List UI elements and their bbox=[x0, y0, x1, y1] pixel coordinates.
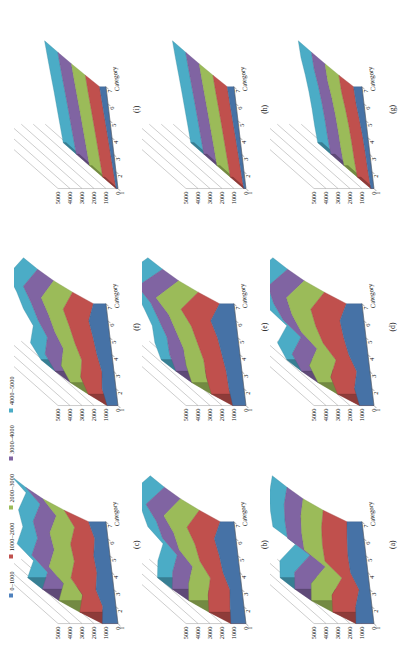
surface-plot-e: 5000400030002000100001234567Category bbox=[142, 218, 270, 436]
category-tick-label: 5 bbox=[366, 123, 373, 126]
category-tick-label: 3 bbox=[114, 374, 121, 377]
surface-plot-a: 5000400030002000100001234567Category bbox=[270, 435, 398, 653]
z-tick-label: 3000 bbox=[206, 626, 213, 639]
category-tick-label: 5 bbox=[110, 123, 117, 126]
category-tick-label: 5 bbox=[366, 340, 373, 343]
z-axis-ticks: 500040003000200010000 bbox=[310, 408, 377, 421]
z-tick-label: 5000 bbox=[182, 408, 189, 421]
surface-plot-c: 5000400030002000100001234567Category bbox=[14, 435, 142, 653]
category-axis-title: Category bbox=[110, 283, 120, 309]
category-tick-label: 6 bbox=[364, 541, 371, 544]
category-axis-title: Category bbox=[110, 500, 120, 526]
surface-ribbons bbox=[142, 475, 246, 623]
panel-caption: (e) bbox=[260, 322, 269, 330]
category-tick-label: 6 bbox=[108, 541, 115, 544]
z-tick-label: 1000 bbox=[102, 626, 109, 639]
surface-ribbons bbox=[270, 475, 374, 623]
category-axis-title: Category bbox=[110, 65, 120, 91]
category-tick-label: 2 bbox=[116, 609, 123, 612]
category-tick-label: 3 bbox=[242, 157, 249, 160]
category-tick-label: 1 bbox=[374, 408, 381, 411]
z-tick-label: 4000 bbox=[66, 408, 73, 421]
surface-ribbons bbox=[14, 258, 118, 406]
z-tick-label: 1000 bbox=[230, 408, 237, 421]
z-tick-label: 1000 bbox=[102, 408, 109, 421]
z-tick-label: 5000 bbox=[54, 408, 61, 421]
panel-caption: (d) bbox=[388, 322, 397, 331]
chart-panel-c: 5000400030002000100001234567Category(c) bbox=[14, 435, 142, 653]
z-tick-label: 2000 bbox=[218, 626, 225, 639]
surface-ribbons bbox=[172, 40, 245, 188]
chart-panel-g: 5000400030002000100001234567Category(g) bbox=[270, 0, 398, 218]
panel-caption: (h) bbox=[260, 104, 269, 113]
z-tick-label: 5000 bbox=[310, 408, 317, 421]
z-axis-ticks: 500040003000200010000 bbox=[54, 408, 121, 421]
legend-swatch-icon bbox=[9, 408, 13, 412]
category-tick-label: 1 bbox=[246, 626, 253, 629]
z-tick-label: 2000 bbox=[346, 191, 353, 204]
category-tick-label: 3 bbox=[242, 374, 249, 377]
z-tick-label: 1000 bbox=[358, 626, 365, 639]
category-tick-label: 5 bbox=[238, 558, 245, 561]
category-tick-label: 4 bbox=[240, 139, 247, 143]
z-tick-label: 3000 bbox=[78, 408, 85, 421]
panel-caption: (a) bbox=[388, 540, 397, 548]
category-tick-label: 6 bbox=[236, 323, 243, 326]
z-tick-label: 4000 bbox=[194, 626, 201, 639]
z-tick-label: 2000 bbox=[90, 408, 97, 421]
category-tick-label: 4 bbox=[112, 357, 119, 361]
z-tick-label: 4000 bbox=[322, 626, 329, 639]
z-tick-label: 4000 bbox=[322, 408, 329, 421]
category-tick-label: 4 bbox=[240, 357, 247, 361]
surface-ribbons bbox=[45, 40, 118, 188]
z-tick-label: 5000 bbox=[54, 191, 61, 204]
category-tick-label: 4 bbox=[112, 574, 119, 578]
category-tick-label: 4 bbox=[112, 139, 119, 143]
category-tick-label: 4 bbox=[368, 574, 375, 578]
z-tick-label: 2000 bbox=[346, 408, 353, 421]
category-tick-label: 1 bbox=[246, 191, 253, 194]
category-tick-label: 1 bbox=[246, 408, 253, 411]
category-tick-label: 1 bbox=[118, 408, 125, 411]
category-tick-label: 6 bbox=[364, 106, 371, 109]
category-tick-label: 2 bbox=[116, 391, 123, 394]
z-tick-label: 3000 bbox=[206, 408, 213, 421]
z-tick-label: 5000 bbox=[54, 626, 61, 639]
category-tick-label: 5 bbox=[366, 558, 373, 561]
category-axis-title: Category bbox=[366, 500, 376, 526]
z-tick-label: 4000 bbox=[194, 191, 201, 204]
surface-ribbons bbox=[142, 258, 246, 406]
z-tick-label: 3000 bbox=[334, 191, 341, 204]
category-tick-label: 4 bbox=[368, 357, 375, 361]
panel-caption: (g) bbox=[388, 104, 397, 113]
surface-plot-d: 5000400030002000100001234567Category bbox=[270, 218, 398, 436]
panel-grid: 5000400030002000100001234567Category(c)5… bbox=[14, 0, 398, 653]
category-tick-label: 6 bbox=[236, 541, 243, 544]
z-tick-label: 1000 bbox=[102, 191, 109, 204]
surface-plot-b: 5000400030002000100001234567Category bbox=[142, 435, 270, 653]
surface-plot-f: 5000400030002000100001234567Category bbox=[14, 218, 142, 436]
chart-panel-f: 5000400030002000100001234567Category(f) bbox=[14, 218, 142, 436]
z-tick-label: 3000 bbox=[78, 626, 85, 639]
z-tick-label: 4000 bbox=[66, 626, 73, 639]
z-tick-label: 2000 bbox=[346, 626, 353, 639]
figure-3d-surface-grid: 0–10001000–20002000–30003000–40004000–50… bbox=[0, 0, 398, 653]
z-axis-ticks: 500040003000200010000 bbox=[182, 191, 249, 204]
chart-panel-e: 5000400030002000100001234567Category(e) bbox=[142, 218, 270, 436]
category-tick-label: 3 bbox=[370, 374, 377, 377]
category-tick-label: 2 bbox=[244, 609, 251, 612]
category-axis-title: Category bbox=[238, 283, 248, 309]
category-tick-label: 1 bbox=[374, 626, 381, 629]
category-tick-label: 3 bbox=[242, 592, 249, 595]
z-axis-ticks: 500040003000200010000 bbox=[54, 191, 121, 204]
z-tick-label: 5000 bbox=[310, 626, 317, 639]
category-tick-label: 3 bbox=[114, 592, 121, 595]
z-tick-label: 2000 bbox=[218, 408, 225, 421]
z-axis-ticks: 500040003000200010000 bbox=[310, 191, 377, 204]
z-tick-label: 2000 bbox=[90, 191, 97, 204]
chart-panel-b: 5000400030002000100001234567Category(b) bbox=[142, 435, 270, 653]
z-tick-label: 3000 bbox=[334, 408, 341, 421]
figure-rotator: 0–10001000–20002000–30003000–40004000–50… bbox=[0, 0, 398, 653]
surface-ribbons bbox=[270, 258, 374, 406]
category-tick-label: 4 bbox=[240, 574, 247, 578]
